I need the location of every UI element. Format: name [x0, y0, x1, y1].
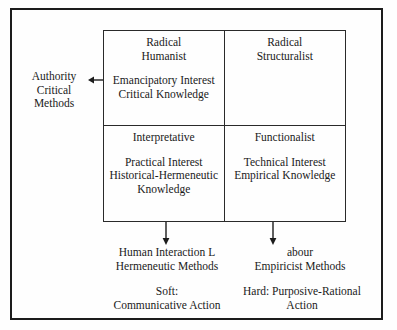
- diagram-canvas: Authority Critical Methods Radical Human…: [0, 0, 397, 330]
- quadrant-functionalist: Functionalist Technical Interest Empiric…: [225, 126, 346, 221]
- caption-paradigm-right: Hard: Purposive-Rational Action: [232, 284, 372, 312]
- caption-paradigm-left: Soft: Communicative Action: [92, 284, 242, 312]
- quadrant-heading: Radical Structuralist: [229, 36, 342, 63]
- quadrant-body: Technical Interest Empirical Knowledge: [229, 156, 342, 183]
- arrow-down-icon: [159, 222, 173, 245]
- quadrant-heading: Radical Humanist: [108, 36, 220, 63]
- arrow-down-icon: [266, 222, 280, 245]
- caption-methods-right: abour Empiricist Methods: [237, 245, 363, 273]
- quadrant-body: Practical Interest Historical-Hermeneuti…: [108, 156, 220, 197]
- caption-methods-left: Human Interaction L Hermeneutic Methods: [92, 245, 242, 273]
- quadrant-heading: Interpretative: [108, 131, 220, 145]
- authority-critical-methods-label: Authority Critical Methods: [16, 70, 92, 111]
- quadrant-interpretative: Interpretative Practical Interest Histor…: [104, 126, 225, 221]
- quadrant-radical-humanist: Radical Humanist Emancipatory Interest C…: [104, 31, 225, 126]
- paradigm-matrix: Radical Humanist Emancipatory Interest C…: [103, 30, 346, 222]
- quadrant-radical-structuralist: Radical Structuralist: [225, 31, 346, 126]
- quadrant-body: Emancipatory Interest Critical Knowledge: [108, 74, 220, 101]
- arrow-left-icon: [88, 73, 104, 87]
- quadrant-heading: Functionalist: [229, 131, 342, 145]
